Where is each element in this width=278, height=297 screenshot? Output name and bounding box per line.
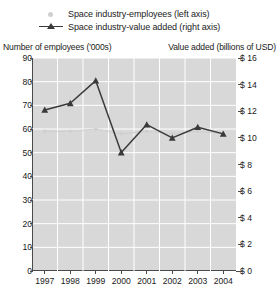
legend-label-employees: Space industry-employees (left axis) [64, 9, 209, 19]
legend-marker-dot-icon [38, 8, 64, 20]
chart-legend: Space industry-employees (left axis) Spa… [38, 7, 248, 33]
tick-mark [44, 271, 45, 274]
tick-mark [238, 58, 242, 59]
tick-mark [30, 58, 33, 59]
tick-mark [70, 271, 71, 274]
tick-mark [238, 137, 242, 138]
tick-mark [30, 271, 33, 272]
y-axis-right-tick-14: $ 14 [240, 80, 257, 90]
legend-label-value-added: Space industry-value added (right axis) [64, 22, 220, 32]
y-axis-right-tick-10: $ 10 [240, 133, 257, 143]
legend-item-employees: Space industry-employees (left axis) [38, 7, 248, 20]
tick-mark [30, 129, 33, 130]
tick-mark [238, 191, 242, 192]
tick-mark [30, 223, 33, 224]
tick-mark [30, 152, 33, 153]
chart-container: Space industry-employees (left axis) Spa… [0, 0, 278, 297]
legend-item-value-added: Space industry-value added (right axis) [38, 20, 248, 33]
tick-mark [223, 271, 224, 274]
tick-mark [172, 271, 173, 274]
tick-mark [197, 271, 198, 274]
y-axis-right-tick-12: $ 12 [240, 106, 257, 116]
tick-mark [238, 217, 242, 218]
tick-mark [236, 271, 244, 272]
x-axis-tick-2004: 2004 [207, 276, 239, 286]
tick-mark [30, 176, 33, 177]
tick-mark [30, 200, 33, 201]
legend-marker-line-triangle-icon [38, 21, 64, 33]
right-axis-title: Value added (billions of USD) [168, 42, 276, 52]
y-axis-right-tick-16: $ 16 [240, 53, 257, 63]
tick-mark [121, 271, 122, 274]
plot-area [32, 58, 236, 271]
tick-mark [30, 247, 33, 248]
left-axis-title: Number of employees ('000s) [3, 42, 111, 52]
tick-mark [30, 105, 33, 106]
tick-mark [95, 271, 96, 274]
plot-svg [32, 58, 236, 271]
tick-mark [146, 271, 147, 274]
tick-mark [238, 244, 242, 245]
tick-mark [238, 84, 242, 85]
tick-mark [238, 111, 242, 112]
tick-mark [238, 164, 242, 165]
tick-mark [30, 81, 33, 82]
